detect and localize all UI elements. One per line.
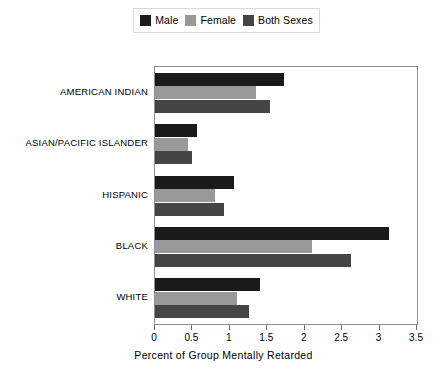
bar [155, 151, 192, 164]
legend-item-male: Male [140, 15, 178, 26]
x-tick-label: 3 [376, 332, 382, 343]
category-label: ASIAN/PACIFIC ISLANDER [0, 137, 148, 148]
legend-label-female: Female [200, 15, 236, 26]
bar [155, 124, 197, 137]
bars-layer [155, 67, 417, 324]
x-tick-label: 1 [226, 332, 232, 343]
bar-group [155, 176, 417, 216]
category-label: BLACK [0, 240, 148, 251]
bar [155, 176, 234, 189]
category-label: WHITE [0, 291, 148, 302]
x-tick [191, 325, 192, 330]
x-tick [229, 325, 230, 330]
bar [155, 100, 270, 113]
bar [155, 189, 215, 202]
x-tick-label: 2.5 [334, 332, 348, 343]
x-axis-ticks: 00.511.522.533.5 [154, 325, 419, 347]
x-tick [304, 325, 305, 330]
x-tick [341, 325, 342, 330]
bar-group [155, 278, 417, 318]
bar [155, 254, 351, 267]
bar-group [155, 227, 417, 267]
x-axis-title: Percent of Group Mentally Retarded [0, 349, 447, 361]
bar-chart: Male Female Both Sexes AMERICAN INDIANAS… [0, 0, 447, 385]
chart-legend: Male Female Both Sexes [133, 8, 320, 33]
legend-swatch-female [185, 15, 196, 26]
x-tick [416, 325, 417, 330]
legend-swatch-both-sexes [243, 15, 254, 26]
bar-group [155, 73, 417, 113]
bar [155, 305, 249, 318]
bar [155, 86, 256, 99]
category-label: HISPANIC [0, 189, 148, 200]
plot-area [154, 66, 418, 325]
legend-item-female: Female [185, 15, 236, 26]
bar [155, 292, 237, 305]
bar [155, 278, 260, 291]
x-tick [379, 325, 380, 330]
bar [155, 73, 284, 86]
x-tick-label: 2 [301, 332, 307, 343]
legend-swatch-male [140, 15, 151, 26]
legend-item-both-sexes: Both Sexes [243, 15, 313, 26]
x-tick-label: 1.5 [259, 332, 273, 343]
bar-group [155, 124, 417, 164]
x-tick-label: 0.5 [184, 332, 198, 343]
category-label: AMERICAN INDIAN [0, 86, 148, 97]
x-tick [266, 325, 267, 330]
bar [155, 240, 312, 253]
bar [155, 138, 188, 151]
legend-label-both-sexes: Both Sexes [258, 15, 313, 26]
bar [155, 203, 224, 216]
legend-label-male: Male [155, 15, 178, 26]
bar [155, 227, 389, 240]
x-tick-label: 3.5 [409, 332, 423, 343]
x-tick-label: 0 [151, 332, 157, 343]
x-tick [154, 325, 155, 330]
